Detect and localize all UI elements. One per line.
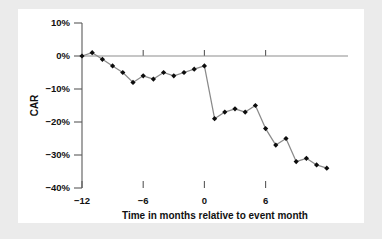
axis-lines <box>74 23 266 188</box>
data-point-marker <box>171 73 176 78</box>
data-point-marker <box>294 159 299 164</box>
data-point-marker <box>202 63 207 68</box>
car-line-path <box>82 53 327 169</box>
y-tick-label: −10% <box>45 83 70 94</box>
y-tick-label: −40% <box>45 182 70 193</box>
y-axis-title: CAR <box>29 94 40 116</box>
y-tick-label: −30% <box>45 149 70 160</box>
x-tick-label: −12 <box>74 195 90 206</box>
x-axis-title: Time in months relative to event month <box>122 210 308 221</box>
x-tick-label: 0 <box>202 195 207 206</box>
car-line-chart: 10%0%−10%−20%−30%−40% −12−606 CAR Time i… <box>18 9 364 223</box>
x-tick-label: −6 <box>138 195 149 206</box>
figure-page: 10%0%−10%−20%−30%−40% −12−606 CAR Time i… <box>0 0 382 239</box>
data-point-marker <box>79 53 84 58</box>
y-tick-label: 0% <box>56 50 70 61</box>
x-axis-tick-labels: −12−606 <box>74 195 268 206</box>
data-point-marker <box>324 166 329 171</box>
y-tick-label: 10% <box>51 17 71 28</box>
data-point-marker <box>192 67 197 72</box>
chart-panel: 10%0%−10%−20%−30%−40% −12−606 CAR Time i… <box>18 9 364 223</box>
data-point-marker <box>181 70 186 75</box>
car-series-line <box>82 53 327 169</box>
x-tick-label: 6 <box>263 195 268 206</box>
y-axis-tick-labels: 10%0%−10%−20%−30%−40% <box>45 17 70 193</box>
data-point-marker <box>232 106 237 111</box>
y-tick-label: −20% <box>45 116 70 127</box>
